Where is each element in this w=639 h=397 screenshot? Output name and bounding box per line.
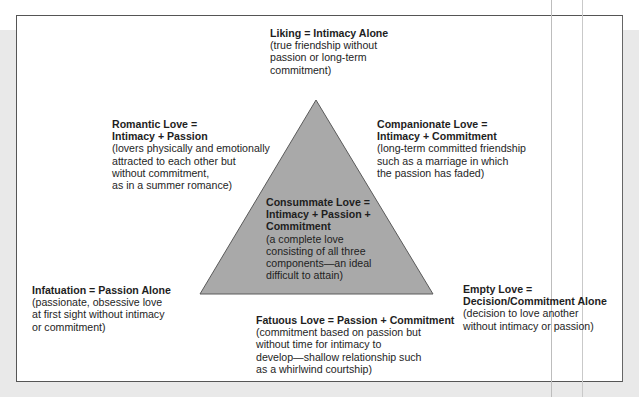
consummate-desc-line: difficult to attain) (266, 269, 371, 281)
companionate-desc-line: the passion has faded) (377, 167, 526, 179)
scan-line (582, 0, 583, 397)
infatuation-title: Infatuation = Passion Alone (32, 284, 171, 296)
consummate-desc-line: (a complete love (266, 233, 371, 245)
consummate-desc-line: components—an ideal (266, 257, 371, 269)
fatuous-title: Fatuous Love = Passion + Commitment (256, 314, 454, 326)
romantic-desc-line: (lovers physically and emotionally (112, 142, 270, 154)
infatuation-label: Infatuation = Passion Alone (passionate,… (32, 284, 171, 333)
romantic-title: Romantic Love = (112, 118, 270, 130)
empty-desc-line: without intimacy or passion) (463, 320, 607, 332)
romantic-title: Intimacy + Passion (112, 130, 270, 142)
romantic-desc-line: without commitment, (112, 167, 270, 179)
romantic-desc-line: attracted to each other but (112, 155, 270, 167)
empty-title: Decision/Commitment Alone (463, 295, 607, 307)
fatuous-desc-line: (commitment based on passion but (256, 326, 454, 338)
empty-title: Empty Love = (463, 283, 607, 295)
consummate-title: Consummate Love = (266, 196, 371, 208)
companionate-title: Intimacy + Commitment (377, 130, 526, 142)
consummate-title: Intimacy + Passion + (266, 208, 371, 220)
companionate-title: Companionate Love = (377, 118, 526, 130)
infatuation-desc-line: (passionate, obsessive love (32, 296, 171, 308)
liking-desc-line: commitment) (270, 64, 388, 76)
companionate-desc-line: (long-term committed friendship (377, 142, 526, 154)
companionate-desc-line: such as a marriage in which (377, 155, 526, 167)
liking-desc-line: passion or long-term (270, 51, 388, 63)
companionate-love-label: Companionate Love = Intimacy + Commitmen… (377, 118, 526, 179)
romantic-desc-line: as in a summer romance) (112, 179, 270, 191)
empty-love-label: Empty Love = Decision/Commitment Alone (… (463, 283, 607, 332)
infatuation-desc-line: or commitment) (32, 321, 171, 333)
liking-label: Liking = Intimacy Alone (true friendship… (270, 27, 388, 76)
consummate-desc-line: consisting of all three (266, 245, 371, 257)
liking-desc-line: (true friendship without (270, 39, 388, 51)
scan-line (551, 0, 552, 397)
fatuous-love-label: Fatuous Love = Passion + Commitment (com… (256, 314, 454, 375)
romantic-love-label: Romantic Love = Intimacy + Passion (love… (112, 118, 270, 191)
infatuation-desc-line: at first sight without intimacy (32, 308, 171, 320)
consummate-love-label: Consummate Love = Intimacy + Passion + C… (266, 196, 371, 281)
fatuous-desc-line: as a whirlwind courtship) (256, 363, 454, 375)
fatuous-desc-line: develop—shallow relationship such (256, 351, 454, 363)
empty-desc-line: (decision to love another (463, 307, 607, 319)
fatuous-desc-line: without time for intimacy to (256, 338, 454, 350)
consummate-title: Commitment (266, 220, 371, 232)
liking-title: Liking = Intimacy Alone (270, 27, 388, 39)
